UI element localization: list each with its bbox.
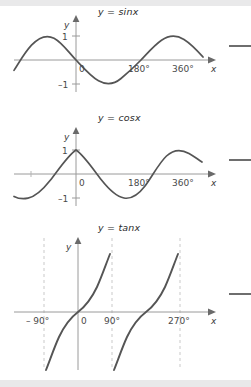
tangent-xtick-label-270: 270° [168, 316, 190, 326]
cosine-ytick-label-neg1: –1 [58, 194, 68, 204]
cosine-origin-label: 0 [79, 178, 85, 188]
figure-cosine-plot: y x 0 1 –1 180° 360° [0, 108, 251, 220]
sine-x-axis-label: x [210, 64, 217, 74]
cosine-x-axis-label: x [210, 178, 217, 188]
sine-x-axis-arrowhead [208, 57, 216, 64]
rule-stub-3 [229, 293, 251, 295]
cosine-x-axis-arrowhead [208, 171, 216, 178]
figure-sine-title: y = sinx [98, 6, 138, 17]
sine-ytick-label-1: 1 [62, 32, 68, 42]
page-bottom-edge-strip [0, 380, 251, 387]
sine-y-axis-label: y [63, 20, 70, 30]
sine-origin-label: 0 [79, 64, 85, 74]
tangent-y-axis-label: y [65, 242, 72, 252]
cosine-xtick-label-180: 180° [128, 178, 150, 188]
tangent-y-axis-arrowhead [75, 237, 82, 244]
figure-cosine-title: y = cosx [98, 112, 141, 123]
textbook-figure-page: y = sinx y x 0 1 –1 180° 360° y = cosx [0, 0, 251, 387]
figure-cosine: y = cosx y x 0 1 –1 180° 360° [0, 108, 251, 220]
sine-y-axis-arrowhead [73, 15, 80, 22]
cosine-y-axis-arrowhead [73, 127, 80, 134]
sine-xtick-label-180: 180° [128, 64, 150, 74]
tangent-xtick-label-90: 90° [104, 316, 120, 326]
cosine-ytick-label-1: 1 [62, 146, 68, 156]
figure-tangent-title: y = tanx [98, 222, 140, 233]
tangent-origin-label: 0 [81, 316, 87, 326]
rule-stub-2 [229, 159, 251, 161]
figure-sine: y = sinx y x 0 1 –1 180° 360° [0, 0, 251, 108]
tangent-x-axis-label: x [210, 316, 217, 326]
cosine-xtick-label-360: 360° [172, 178, 194, 188]
figure-tangent: y = tanx y x 0 – 90° 90° 270° [0, 220, 251, 380]
sine-xtick-label-360: 360° [172, 64, 194, 74]
sine-ytick-label-neg1: –1 [58, 80, 68, 90]
figure-tangent-plot: y x 0 – 90° 90° 270° [0, 220, 251, 380]
tangent-x-axis-arrowhead [208, 309, 216, 316]
rule-stub-1 [229, 45, 251, 47]
tangent-xtick-label-neg90: – 90° [26, 316, 49, 326]
cosine-y-axis-label: y [63, 132, 70, 142]
